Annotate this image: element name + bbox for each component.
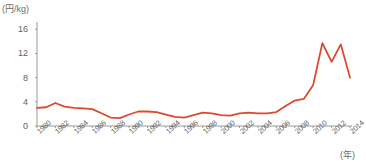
x-tick-label: 1992 (145, 118, 163, 135)
x-tick-label: 1986 (90, 118, 108, 135)
x-axis-unit-label: (年) (340, 148, 355, 161)
x-tick-label: 1984 (72, 118, 90, 135)
x-tick-label: 1990 (127, 118, 145, 135)
x-tick-label: 2010 (311, 118, 329, 135)
x-tick-label: 2014 (348, 118, 366, 135)
x-tick-label: 2008 (293, 118, 311, 135)
x-tick-label: 2004 (256, 118, 274, 135)
x-tick-label: 1988 (109, 118, 127, 135)
x-tick-label: 1998 (201, 118, 219, 135)
x-tick-label: 2000 (219, 118, 237, 135)
x-tick-label: 1994 (164, 118, 182, 135)
x-tick-label: 2002 (238, 118, 256, 135)
x-tick-label: 2006 (274, 118, 292, 135)
x-tick-label: 2012 (330, 118, 348, 135)
x-tick-label: 1980 (35, 118, 53, 135)
x-tick-label: 1982 (53, 118, 71, 135)
x-tick-label: 1996 (182, 118, 200, 135)
